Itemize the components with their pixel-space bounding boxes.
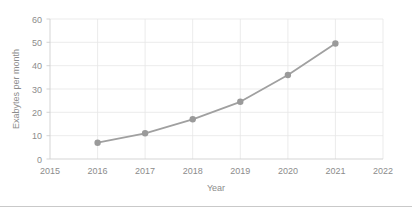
x-tick-label-2016: 2016 xyxy=(88,166,108,176)
x-tick-labels: 2015 2016 2017 2018 2019 2020 2021 2022 xyxy=(40,166,393,176)
y-axis-title: Exabytes per month xyxy=(11,49,21,129)
x-tick-label-2018: 2018 xyxy=(183,166,203,176)
data-point-2021 xyxy=(332,40,338,46)
data-point-2020 xyxy=(285,72,291,78)
line-chart: 60 50 40 30 20 10 0 2015 2016 2017 2018 … xyxy=(0,0,412,213)
y-tick-label-50: 50 xyxy=(32,38,42,48)
y-tick-marks xyxy=(47,19,51,159)
y-tick-label-20: 20 xyxy=(32,108,42,118)
data-point-2018 xyxy=(190,116,196,122)
data-point-2019 xyxy=(237,99,243,105)
y-gridlines xyxy=(50,19,383,136)
x-tick-label-2017: 2017 xyxy=(135,166,155,176)
data-point-2016 xyxy=(94,140,100,146)
y-tick-label-60: 60 xyxy=(32,15,42,25)
x-tick-label-2021: 2021 xyxy=(325,166,345,176)
x-tick-label-2015: 2015 xyxy=(40,166,60,176)
y-tick-label-30: 30 xyxy=(32,85,42,95)
x-axis-title: Year xyxy=(207,183,225,193)
data-point-2017 xyxy=(142,130,148,136)
series-line-exabytes xyxy=(98,44,336,143)
y-tick-label-40: 40 xyxy=(32,61,42,71)
chart-figure: 60 50 40 30 20 10 0 2015 2016 2017 2018 … xyxy=(0,0,412,213)
footer-divider xyxy=(0,206,412,207)
y-tick-label-0: 0 xyxy=(37,155,42,165)
x-tick-label-2022: 2022 xyxy=(373,166,393,176)
x-tick-label-2019: 2019 xyxy=(230,166,250,176)
y-tick-labels: 60 50 40 30 20 10 0 xyxy=(32,15,42,165)
x-tick-label-2020: 2020 xyxy=(278,166,298,176)
series-markers xyxy=(94,40,338,146)
y-tick-label-10: 10 xyxy=(32,131,42,141)
